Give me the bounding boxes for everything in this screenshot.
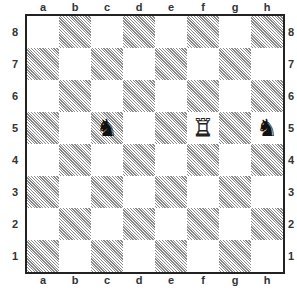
square-h5[interactable]: ♞ [251,112,283,144]
square-a5[interactable] [27,112,59,144]
file-label-f: f [187,274,219,286]
black-knight-icon[interactable]: ♞ [256,116,278,140]
rank-label-5: 5 [284,122,297,134]
square-h1[interactable] [251,240,283,272]
square-g3[interactable] [219,176,251,208]
black-knight-icon[interactable]: ♞ [96,116,118,140]
square-b1[interactable] [59,240,91,272]
square-g1[interactable] [219,240,251,272]
square-d2[interactable] [123,208,155,240]
square-a3[interactable] [27,176,59,208]
file-label-d: d [123,1,155,13]
square-f2[interactable] [187,208,219,240]
square-f4[interactable] [187,144,219,176]
square-e4[interactable] [155,144,187,176]
rank-label-8: 8 [8,26,22,38]
rank-label-2: 2 [284,218,297,230]
file-label-g: g [219,274,251,286]
square-g6[interactable] [219,80,251,112]
rank-label-3: 3 [8,186,22,198]
square-h2[interactable] [251,208,283,240]
file-label-f: f [187,1,219,13]
rank-label-1: 1 [284,250,297,262]
rank-label-8: 8 [284,26,297,38]
square-g5[interactable] [219,112,251,144]
file-label-h: h [251,274,283,286]
square-b4[interactable] [59,144,91,176]
file-label-d: d [123,274,155,286]
file-label-b: b [59,1,91,13]
square-g4[interactable] [219,144,251,176]
file-label-a: a [27,1,59,13]
square-g2[interactable] [219,208,251,240]
white-rook-icon[interactable]: ♖ [192,116,214,140]
chess-board: ♞♖♞ [25,14,285,274]
rank-label-6: 6 [8,90,22,102]
square-e7[interactable] [155,48,187,80]
square-d7[interactable] [123,48,155,80]
square-c5[interactable]: ♞ [91,112,123,144]
square-c2[interactable] [91,208,123,240]
square-b8[interactable] [59,16,91,48]
square-d5[interactable] [123,112,155,144]
file-label-c: c [91,1,123,13]
rank-label-7: 7 [8,58,22,70]
square-f6[interactable] [187,80,219,112]
square-h7[interactable] [251,48,283,80]
square-b2[interactable] [59,208,91,240]
square-c6[interactable] [91,80,123,112]
square-a7[interactable] [27,48,59,80]
square-a6[interactable] [27,80,59,112]
square-b3[interactable] [59,176,91,208]
rank-label-3: 3 [284,186,297,198]
square-f5[interactable]: ♖ [187,112,219,144]
square-g8[interactable] [219,16,251,48]
file-label-g: g [219,1,251,13]
square-h6[interactable] [251,80,283,112]
square-a2[interactable] [27,208,59,240]
square-e2[interactable] [155,208,187,240]
rank-label-7: 7 [284,58,297,70]
square-b6[interactable] [59,80,91,112]
square-h8[interactable] [251,16,283,48]
square-a4[interactable] [27,144,59,176]
file-label-b: b [59,274,91,286]
rank-label-4: 4 [284,154,297,166]
square-d3[interactable] [123,176,155,208]
square-d6[interactable] [123,80,155,112]
square-d8[interactable] [123,16,155,48]
square-f3[interactable] [187,176,219,208]
square-a8[interactable] [27,16,59,48]
rank-label-1: 1 [8,250,22,262]
square-f7[interactable] [187,48,219,80]
square-b7[interactable] [59,48,91,80]
square-h4[interactable] [251,144,283,176]
square-f8[interactable] [187,16,219,48]
square-e3[interactable] [155,176,187,208]
file-label-e: e [155,274,187,286]
square-b5[interactable] [59,112,91,144]
rank-label-6: 6 [284,90,297,102]
square-f1[interactable] [187,240,219,272]
square-c1[interactable] [91,240,123,272]
file-label-a: a [27,274,59,286]
square-c3[interactable] [91,176,123,208]
square-e8[interactable] [155,16,187,48]
file-label-c: c [91,274,123,286]
square-c4[interactable] [91,144,123,176]
square-h3[interactable] [251,176,283,208]
file-label-e: e [155,1,187,13]
square-g7[interactable] [219,48,251,80]
square-d1[interactable] [123,240,155,272]
square-a1[interactable] [27,240,59,272]
square-e5[interactable] [155,112,187,144]
square-e1[interactable] [155,240,187,272]
square-e6[interactable] [155,80,187,112]
square-c7[interactable] [91,48,123,80]
rank-label-5: 5 [8,122,22,134]
rank-label-4: 4 [8,154,22,166]
file-label-h: h [251,1,283,13]
square-d4[interactable] [123,144,155,176]
rank-label-2: 2 [8,218,22,230]
square-c8[interactable] [91,16,123,48]
